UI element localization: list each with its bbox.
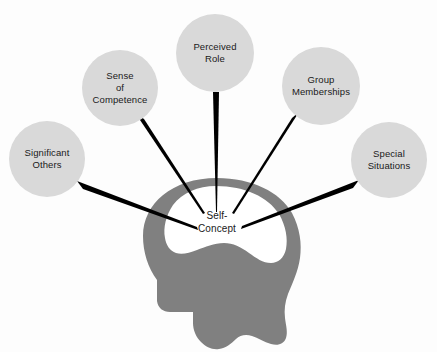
node-label-perceived-role-line1: Perceived (193, 41, 236, 52)
node-label-significant-others-line1: Significant (25, 147, 70, 158)
node-significant-others[interactable]: Significant Others (9, 121, 85, 197)
node-label-sense-of-competence-line3: Competence (93, 94, 148, 105)
node-label-group-memberships-line2: Memberships (292, 86, 350, 97)
node-sense-of-competence[interactable]: Sense of Competence (82, 50, 158, 126)
diagram-canvas: Significant Others Sense of Competence P… (0, 0, 437, 352)
node-special-situations[interactable]: Special Situations (351, 122, 427, 198)
node-label-sense-of-competence-line1: Sense (106, 70, 133, 81)
head-silhouette-group (143, 178, 301, 349)
self-concept-diagram: Significant Others Sense of Competence P… (0, 0, 437, 352)
center-label-line1: Self- (206, 210, 227, 221)
node-group-memberships[interactable]: Group Memberships (282, 47, 360, 125)
center-label-line2: Concept (198, 223, 236, 234)
node-perceived-role[interactable]: Perceived Role (176, 14, 254, 92)
node-label-significant-others-line2: Others (32, 159, 61, 170)
node-label-perceived-role-line2: Role (205, 53, 225, 64)
node-label-special-situations-line1: Special (373, 148, 405, 159)
node-label-special-situations-line2: Situations (368, 160, 411, 171)
node-label-group-memberships-line1: Group (308, 74, 335, 85)
node-label-sense-of-competence-line2: of (116, 82, 124, 93)
